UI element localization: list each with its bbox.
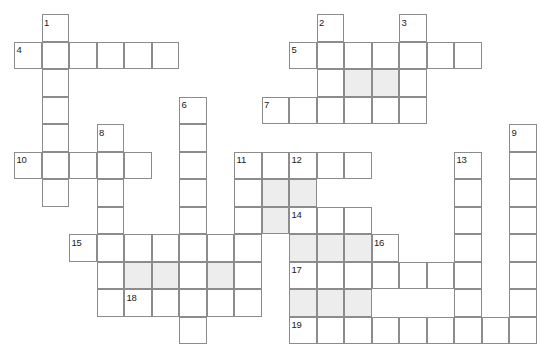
- grid-cell[interactable]: [42, 179, 70, 207]
- grid-cell-shaded[interactable]: [124, 262, 152, 290]
- clue-number-14: 14: [292, 210, 302, 220]
- grid-cell[interactable]: [317, 262, 345, 290]
- grid-cell[interactable]: [399, 262, 427, 290]
- grid-cell[interactable]: [427, 317, 455, 345]
- grid-cell[interactable]: [42, 69, 70, 97]
- grid-cell-shaded[interactable]: [289, 289, 317, 317]
- grid-cell[interactable]: [179, 207, 207, 235]
- grid-cell[interactable]: [399, 69, 427, 97]
- crossword-grid[interactable]: 12345678910111213141516171819: [0, 0, 555, 359]
- grid-cell[interactable]: [179, 234, 207, 262]
- grid-cell[interactable]: [179, 179, 207, 207]
- grid-cell[interactable]: [152, 42, 180, 70]
- grid-cell[interactable]: [207, 289, 235, 317]
- grid-cell[interactable]: [69, 152, 97, 180]
- grid-cell[interactable]: [97, 234, 125, 262]
- grid-cell[interactable]: [262, 152, 290, 180]
- grid-cell[interactable]: [344, 262, 372, 290]
- grid-cell[interactable]: [509, 207, 537, 235]
- grid-cell[interactable]: [344, 317, 372, 345]
- grid-cell[interactable]: [179, 289, 207, 317]
- grid-cell[interactable]: [344, 97, 372, 125]
- grid-cell[interactable]: [207, 234, 235, 262]
- grid-cell[interactable]: [509, 234, 537, 262]
- grid-cell[interactable]: [289, 97, 317, 125]
- grid-cell-shaded[interactable]: [289, 179, 317, 207]
- grid-cell-shaded[interactable]: [344, 234, 372, 262]
- grid-cell-shaded[interactable]: [344, 289, 372, 317]
- clue-number-18: 18: [127, 293, 137, 303]
- grid-cell[interactable]: [344, 207, 372, 235]
- grid-cell[interactable]: [509, 289, 537, 317]
- grid-cell-shaded[interactable]: [317, 234, 345, 262]
- grid-cell[interactable]: [399, 317, 427, 345]
- grid-cell[interactable]: [509, 262, 537, 290]
- grid-cell[interactable]: [372, 42, 400, 70]
- grid-cell[interactable]: [399, 42, 427, 70]
- grid-cell[interactable]: [317, 42, 345, 70]
- grid-cell-shaded[interactable]: [152, 262, 180, 290]
- grid-cell[interactable]: [317, 152, 345, 180]
- grid-cell-shaded[interactable]: [262, 207, 290, 235]
- grid-cell[interactable]: [97, 152, 125, 180]
- grid-cell[interactable]: [42, 124, 70, 152]
- grid-cell[interactable]: [179, 124, 207, 152]
- grid-cell[interactable]: [317, 97, 345, 125]
- grid-cell[interactable]: [454, 262, 482, 290]
- grid-cell[interactable]: [69, 42, 97, 70]
- grid-cell[interactable]: [509, 179, 537, 207]
- grid-cell[interactable]: [482, 317, 510, 345]
- grid-cell[interactable]: [124, 42, 152, 70]
- grid-cell[interactable]: [152, 289, 180, 317]
- grid-cell[interactable]: [124, 152, 152, 180]
- grid-cell[interactable]: [454, 317, 482, 345]
- grid-cell[interactable]: [152, 234, 180, 262]
- grid-cell[interactable]: [317, 317, 345, 345]
- grid-cell-shaded[interactable]: [372, 69, 400, 97]
- clue-number-11: 11: [237, 155, 246, 165]
- grid-cell[interactable]: [344, 152, 372, 180]
- grid-cell[interactable]: [399, 97, 427, 125]
- grid-cell[interactable]: [344, 42, 372, 70]
- grid-cell[interactable]: [97, 262, 125, 290]
- grid-cell[interactable]: [234, 234, 262, 262]
- grid-cell[interactable]: [234, 262, 262, 290]
- grid-cell[interactable]: [372, 262, 400, 290]
- grid-cell-shaded[interactable]: [317, 289, 345, 317]
- grid-cell[interactable]: [97, 289, 125, 317]
- clue-number-2: 2: [319, 18, 324, 28]
- grid-cell[interactable]: [42, 152, 70, 180]
- grid-cell[interactable]: [124, 234, 152, 262]
- grid-cell[interactable]: [42, 42, 70, 70]
- grid-cell[interactable]: [454, 234, 482, 262]
- grid-cell[interactable]: [372, 97, 400, 125]
- grid-cell[interactable]: [97, 207, 125, 235]
- grid-cell[interactable]: [427, 262, 455, 290]
- grid-cell-shaded[interactable]: [207, 262, 235, 290]
- grid-cell[interactable]: [97, 42, 125, 70]
- grid-cell-shaded[interactable]: [289, 234, 317, 262]
- grid-cell[interactable]: [454, 289, 482, 317]
- clue-number-6: 6: [182, 100, 187, 110]
- grid-cell[interactable]: [234, 179, 262, 207]
- grid-cell[interactable]: [372, 317, 400, 345]
- grid-cell[interactable]: [509, 317, 537, 345]
- grid-cell-shaded[interactable]: [344, 69, 372, 97]
- grid-cell[interactable]: [317, 69, 345, 97]
- grid-cell[interactable]: [454, 179, 482, 207]
- grid-cell[interactable]: [427, 42, 455, 70]
- grid-cell[interactable]: [234, 207, 262, 235]
- clue-number-17: 17: [292, 265, 302, 275]
- grid-cell[interactable]: [179, 262, 207, 290]
- grid-cell[interactable]: [97, 179, 125, 207]
- clue-number-4: 4: [17, 45, 22, 55]
- grid-cell[interactable]: [234, 289, 262, 317]
- grid-cell[interactable]: [179, 317, 207, 345]
- grid-cell[interactable]: [317, 207, 345, 235]
- grid-cell[interactable]: [42, 97, 70, 125]
- grid-cell[interactable]: [179, 152, 207, 180]
- grid-cell[interactable]: [509, 152, 537, 180]
- grid-cell-shaded[interactable]: [262, 179, 290, 207]
- grid-cell[interactable]: [454, 42, 482, 70]
- grid-cell[interactable]: [454, 207, 482, 235]
